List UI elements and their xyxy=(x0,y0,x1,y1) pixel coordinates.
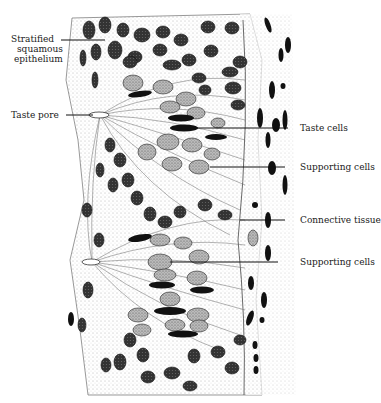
taste-bud-figure: Stratified squamous epithelium Taste por… xyxy=(0,0,381,403)
label-line: squamous xyxy=(11,44,63,54)
label-supporting-cells-lower: Supporting cells xyxy=(300,257,375,267)
label-stratified-squamous-epithelium: Stratified squamous epithelium xyxy=(11,34,63,64)
label-taste-pore: Taste pore xyxy=(11,110,59,120)
label-supporting-cells-upper: Supporting cells xyxy=(300,162,375,172)
label-connective-tissue: Connective tissue xyxy=(300,215,381,225)
label-taste-cells: Taste cells xyxy=(300,123,348,133)
label-line: epithelium xyxy=(11,54,63,64)
label-line: Stratified xyxy=(11,34,63,44)
